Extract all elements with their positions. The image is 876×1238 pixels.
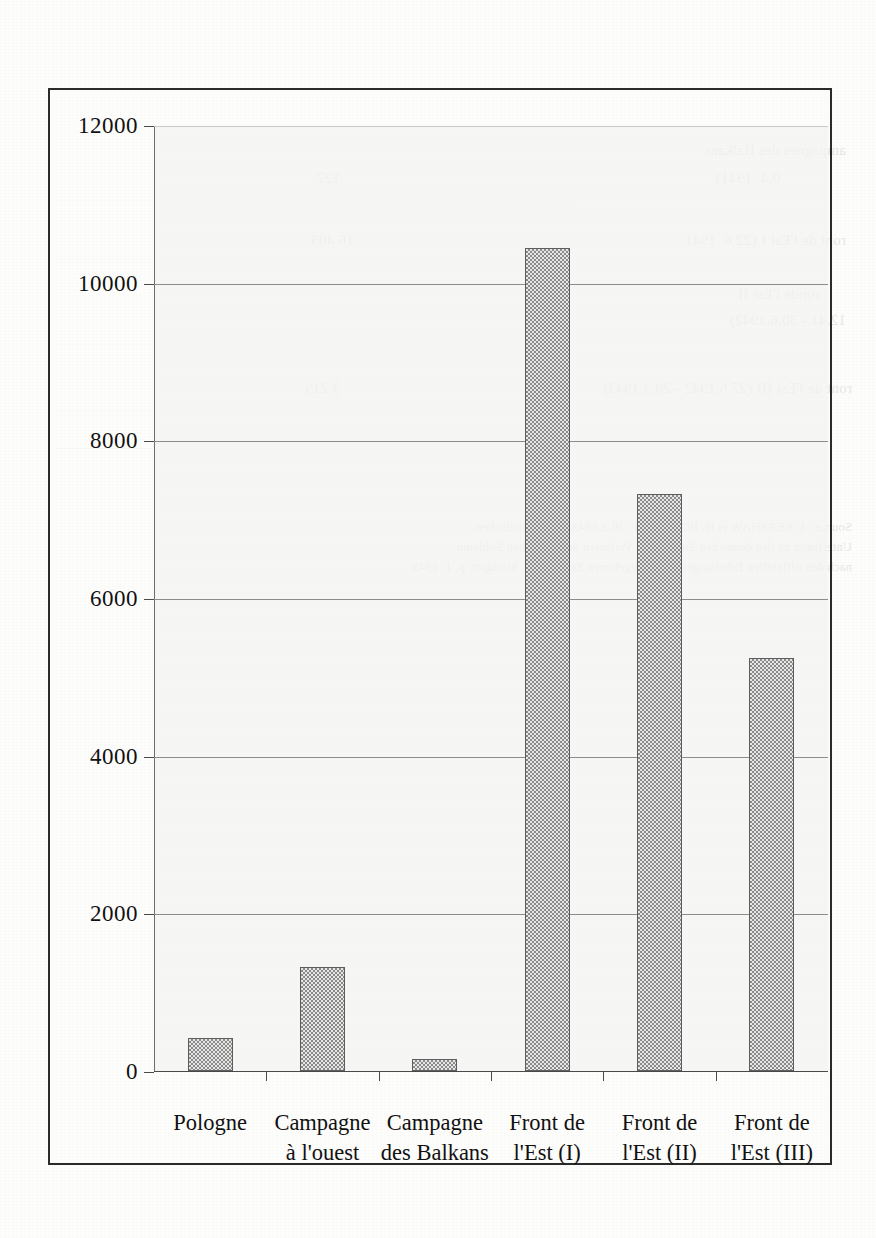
x-axis-category-label: Front del'Est (III): [716, 1108, 828, 1168]
scanned-page: ampagnes des Balkans 0.4. 1941) ront de …: [0, 0, 876, 1238]
x-axis-category-label-line: Campagne: [266, 1108, 378, 1138]
x-axis-category-label-line: Front de: [716, 1108, 828, 1138]
chart-frame: 020004000600080001000012000 PologneCampa…: [48, 88, 832, 1165]
x-axis-category-label-line: des Balkans: [379, 1138, 491, 1168]
bar: [412, 1059, 457, 1071]
x-axis-category-label: Pologne: [154, 1108, 266, 1138]
x-axis-category-label: Campagnedes Balkans: [379, 1108, 491, 1168]
bar: [300, 967, 345, 1071]
y-axis-tick-label: 2000: [90, 901, 138, 927]
x-axis-category-label-line: Pologne: [154, 1108, 266, 1138]
gridline: [154, 757, 828, 758]
x-axis-tick: [379, 1072, 380, 1081]
gridline: [154, 599, 828, 600]
x-axis-category-label-line: Front de: [491, 1108, 603, 1138]
y-axis-tick-label: 12000: [78, 113, 138, 139]
gridline: [154, 441, 828, 442]
y-axis-tick-label: 6000: [90, 586, 138, 612]
x-axis-tick: [266, 1072, 267, 1081]
x-axis-category-label-line: l'Est (I): [491, 1138, 603, 1168]
x-axis-category-label: Front del'Est (I): [491, 1108, 603, 1168]
x-axis-category-label-line: à l'ouest: [266, 1138, 378, 1168]
y-axis-tick-label: 8000: [90, 428, 138, 454]
x-axis-labels: PologneCampagneà l'ouestCampagnedes Balk…: [154, 1108, 828, 1188]
y-axis-tick: [144, 1072, 154, 1073]
y-axis-tick-label: 4000: [90, 744, 138, 770]
x-axis-tick: [603, 1072, 604, 1081]
y-axis-tick: [144, 284, 154, 285]
x-axis-category-label: Front del'Est (II): [603, 1108, 715, 1168]
x-axis-tick: [491, 1072, 492, 1081]
x-axis-category-label-line: l'Est (II): [603, 1138, 715, 1168]
bar: [188, 1038, 233, 1071]
bar: [749, 658, 794, 1071]
x-axis-category-label-line: Campagne: [379, 1108, 491, 1138]
x-axis-category-label: Campagneà l'ouest: [266, 1108, 378, 1168]
gridline: [154, 126, 828, 127]
x-axis-category-label-line: Front de: [603, 1108, 715, 1138]
x-axis-category-label-line: l'Est (III): [716, 1138, 828, 1168]
x-axis-tick: [716, 1072, 717, 1081]
y-axis-tick: [144, 126, 154, 127]
y-axis-tick: [144, 599, 154, 600]
y-axis-tick-label: 10000: [78, 271, 138, 297]
bar: [637, 494, 682, 1071]
y-axis-tick-label: 0: [126, 1059, 138, 1085]
bar: [525, 248, 570, 1071]
y-axis-tick: [144, 757, 154, 758]
gridline: [154, 914, 828, 915]
plot-area: 020004000600080001000012000: [154, 126, 828, 1072]
y-axis-tick: [144, 914, 154, 915]
gridline: [154, 284, 828, 285]
y-axis-tick: [144, 441, 154, 442]
